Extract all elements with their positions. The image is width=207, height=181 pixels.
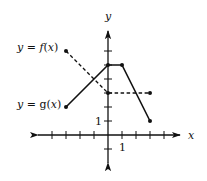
x-tick-label-1: 1 (119, 141, 126, 154)
coordinate-plane: x y 1 1 y = f(x) y = g(x) (0, 0, 207, 181)
x-axis-label: x (188, 129, 195, 142)
label-g: y = g(x) (16, 98, 61, 111)
label-f: y = f(x) (16, 41, 58, 54)
y-tick-label-1: 1 (95, 115, 102, 128)
y-axis-label: y (104, 10, 112, 23)
